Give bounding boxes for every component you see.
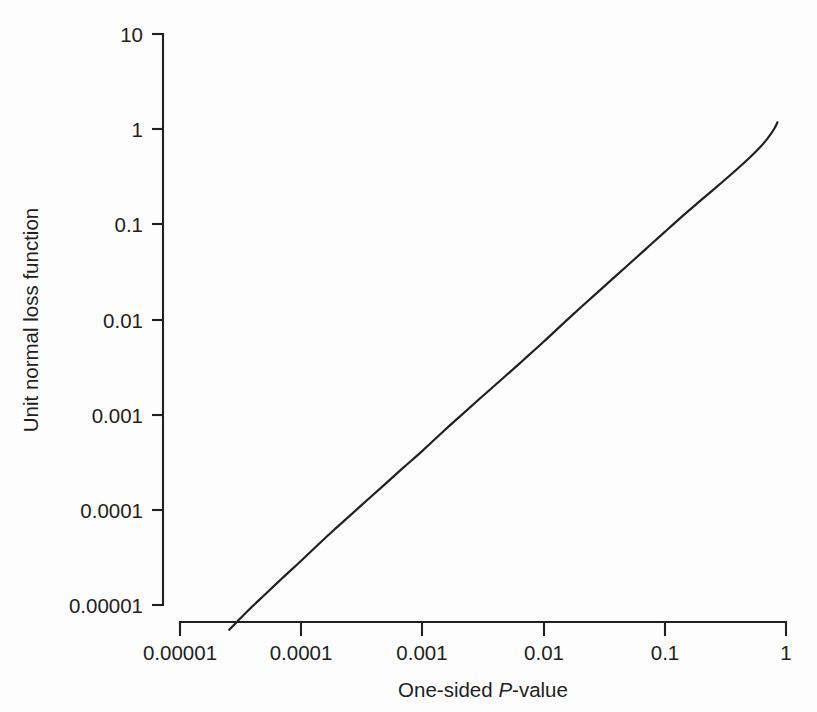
- x-tick-label-0-0001: 0.0001: [270, 641, 333, 664]
- x-axis-title-part1: One-sided: [398, 678, 498, 701]
- y-axis-tick-labels: 10 1 0.1 0.01 0.001 0.0001 0.00001: [69, 23, 143, 617]
- y-tick-label-10: 10: [120, 23, 143, 46]
- y-tick-label-0-00001: 0.00001: [69, 594, 143, 617]
- figure-container: 10 1 0.1 0.01 0.001 0.0001 0.00001 0.000…: [0, 0, 817, 712]
- x-tick-label-0-01: 0.01: [524, 641, 564, 664]
- y-tick-label-0-1: 0.1: [115, 213, 144, 236]
- y-tick-label-0-001: 0.001: [92, 404, 143, 427]
- x-axis-title-part2: P: [498, 678, 512, 701]
- x-tick-label-1: 1: [780, 641, 791, 664]
- x-axis-title-part3: -value: [512, 678, 568, 701]
- x-axis-ticks: [180, 622, 786, 636]
- y-axis-title: Unit normal loss function: [19, 208, 42, 432]
- x-tick-label-0-00001: 0.00001: [143, 641, 217, 664]
- x-axis-tick-labels: 0.00001 0.0001 0.001 0.01 0.1 1: [143, 641, 792, 664]
- y-axis-ticks: [152, 34, 163, 605]
- x-tick-label-0-001: 0.001: [396, 641, 447, 664]
- x-tick-label-0-1: 0.1: [651, 641, 680, 664]
- y-tick-label-1: 1: [132, 118, 143, 141]
- data-series-line: [229, 122, 777, 629]
- log-log-chart: 10 1 0.1 0.01 0.001 0.0001 0.00001 0.000…: [0, 0, 817, 712]
- x-axis-title: One-sided P-value: [398, 678, 568, 701]
- y-tick-label-0-01: 0.01: [103, 309, 143, 332]
- y-tick-label-0-0001: 0.0001: [80, 499, 143, 522]
